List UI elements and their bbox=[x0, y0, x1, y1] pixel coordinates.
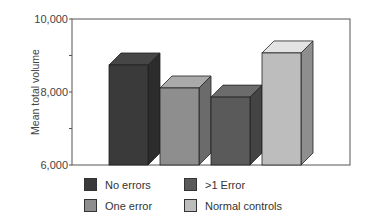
bar--1-error bbox=[211, 85, 262, 165]
legend-swatch bbox=[184, 199, 197, 212]
legend-label: >1 Error bbox=[205, 179, 245, 191]
legend-label: No errors bbox=[105, 179, 151, 191]
y-tick-label: 8,000 bbox=[40, 86, 68, 98]
y-tick-label: 10,000 bbox=[34, 13, 68, 25]
y-tick-label: 6,000 bbox=[40, 159, 68, 171]
legend-item-no-errors: No errors bbox=[84, 178, 151, 191]
bars bbox=[109, 41, 313, 165]
legend: No errors >1 Error One error Normal cont… bbox=[84, 178, 344, 222]
legend-item-one-error: One error bbox=[84, 199, 152, 212]
legend-swatch bbox=[84, 178, 97, 191]
legend-label: One error bbox=[105, 200, 152, 212]
legend-item-normal-controls: Normal controls bbox=[184, 199, 282, 212]
bar-one-error bbox=[160, 76, 211, 165]
legend-swatch bbox=[84, 199, 97, 212]
legend-label: Normal controls bbox=[205, 200, 282, 212]
legend-item-more-than-one-error: >1 Error bbox=[184, 178, 245, 191]
y-axis-label: Mean total volume bbox=[29, 49, 41, 135]
legend-swatch bbox=[184, 178, 197, 191]
bar-no-errors bbox=[109, 53, 160, 165]
bar-normal-controls bbox=[262, 41, 313, 165]
